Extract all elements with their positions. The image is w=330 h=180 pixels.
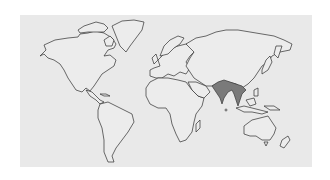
madagascar	[196, 120, 200, 132]
new-zealand	[280, 136, 290, 148]
indonesia	[236, 106, 268, 114]
philippines	[254, 88, 258, 96]
south-america	[98, 102, 134, 162]
greenland	[112, 20, 144, 52]
caribbean	[100, 94, 110, 96]
map-panel	[20, 15, 312, 167]
uk	[152, 54, 158, 64]
central-america	[86, 90, 104, 104]
arctic-islands	[78, 22, 108, 33]
tasmania	[264, 142, 268, 146]
sri-lanka	[225, 109, 227, 111]
borneo	[246, 98, 256, 106]
world-map	[20, 15, 312, 167]
asia	[186, 30, 292, 88]
new-guinea	[264, 106, 280, 110]
australia	[244, 116, 276, 140]
